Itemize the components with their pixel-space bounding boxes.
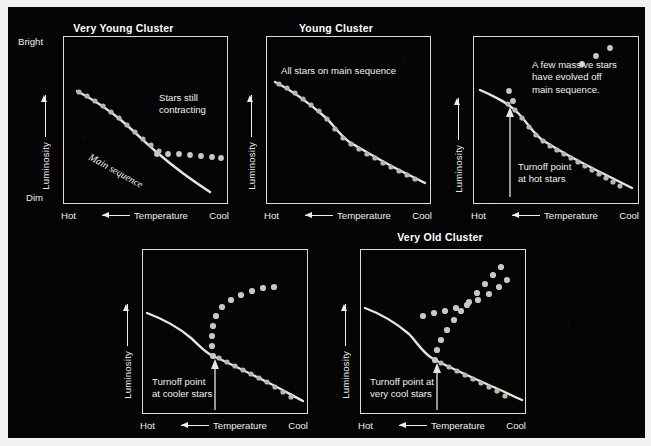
x-axis-old: Hot Temperature Cool xyxy=(140,418,308,432)
left-arrow-icon xyxy=(305,215,333,216)
panel-title: Young Cluster xyxy=(236,22,436,34)
left-arrow-icon xyxy=(512,215,540,216)
giant-branch-dots xyxy=(209,284,277,359)
y-axis-arrow-icon xyxy=(251,95,252,137)
plot-frame: All stars on main sequence xyxy=(266,36,431,204)
x-axis-older: Hot Temperature Cool xyxy=(471,208,639,222)
y-axis-label: Luminosity xyxy=(340,351,351,399)
y-axis-arrow-icon xyxy=(45,95,46,137)
panel-older-cluster: Luminosity xyxy=(443,33,643,223)
main-sequence-curve-label: Main sequence xyxy=(86,151,145,191)
y-axis-bottom-label: Dim xyxy=(26,192,43,203)
all-stars-on-main-sequence-note: All stars on main sequence xyxy=(281,65,396,77)
x-axis-hot-label: Hot xyxy=(264,210,298,221)
main-sequence-dots xyxy=(438,360,507,398)
plot-young-cluster xyxy=(267,37,432,205)
panel-very-old-cluster: Very Old Cluster Luminosity xyxy=(330,231,545,438)
x-axis-label: Temperature xyxy=(134,210,188,221)
stars-still-contracting-note: Stars still contracting xyxy=(159,92,206,117)
x-axis-direction: Temperature xyxy=(95,210,195,221)
x-axis-hot-label: Hot xyxy=(471,210,505,221)
x-axis-direction: Temperature xyxy=(174,420,274,431)
turnoff-point-arrow xyxy=(433,363,441,410)
x-axis-hot-label: Hot xyxy=(358,420,392,431)
y-axis-young: Luminosity xyxy=(244,70,258,190)
panel-old-cluster: Luminosity xyxy=(112,239,327,438)
plot-frame: Turnoff point at cooler stars xyxy=(142,249,308,414)
evolved-off-main-sequence-note: A few massive stars have evolved off mai… xyxy=(532,59,617,96)
turnoff-point-note: Turnoff point at very cool stars xyxy=(370,376,434,401)
left-arrow-icon xyxy=(181,425,209,426)
x-axis-label: Temperature xyxy=(431,420,485,431)
x-axis-direction: Temperature xyxy=(392,420,492,431)
x-axis-hot-label: Hot xyxy=(61,210,95,221)
panel-title: Very Old Cluster xyxy=(350,231,530,243)
y-axis-very-young: Luminosity xyxy=(38,70,52,190)
y-axis-arrow-icon xyxy=(458,98,459,140)
y-axis-arrow-icon xyxy=(345,304,346,346)
x-axis-cool-label: Cool xyxy=(398,210,432,221)
y-axis-arrow-icon xyxy=(127,304,128,346)
hr-diagram-figure: Very Young Cluster Bright Dim Luminosity xyxy=(8,7,645,438)
left-arrow-icon xyxy=(399,425,427,426)
giant-branch-dots xyxy=(432,264,504,363)
x-axis-cool-label: Cool xyxy=(492,420,526,431)
panel-very-young-cluster: Very Young Cluster Bright Dim Luminosity xyxy=(16,22,231,222)
x-axis-very-old: Hot Temperature Cool xyxy=(358,418,526,432)
plot-frame: A few massive stars have evolved off mai… xyxy=(473,36,639,204)
y-axis-top-label: Bright xyxy=(18,36,43,47)
panel-young-cluster: Young Cluster Luminosity xyxy=(236,22,436,222)
x-axis-cool-label: Cool xyxy=(195,210,229,221)
y-axis-label: Luminosity xyxy=(40,142,51,190)
x-axis-label: Temperature xyxy=(337,210,391,221)
x-axis-label: Temperature xyxy=(213,420,267,431)
x-axis-young: Hot Temperature Cool xyxy=(264,208,432,222)
x-axis-hot-label: Hot xyxy=(140,420,174,431)
plot-frame: Main sequence Stars still contracting xyxy=(63,36,228,204)
y-axis-older: Luminosity xyxy=(451,73,465,193)
x-axis-very-young: Hot Temperature Cool xyxy=(61,208,229,222)
turnoff-point-note: Turnoff point at cooler stars xyxy=(152,376,212,401)
left-arrow-icon xyxy=(102,215,130,216)
x-axis-cool-label: Cool xyxy=(605,210,639,221)
y-axis-label: Luminosity xyxy=(122,351,133,399)
y-axis-old: Luminosity xyxy=(120,279,134,399)
y-axis-label: Luminosity xyxy=(453,145,464,193)
turnoff-point-note: Turnoff point at hot stars xyxy=(518,161,571,186)
x-axis-label: Temperature xyxy=(544,210,598,221)
x-axis-direction: Temperature xyxy=(505,210,605,221)
x-axis-cool-label: Cool xyxy=(274,420,308,431)
panel-title: Very Young Cluster xyxy=(16,22,231,34)
plot-very-young-cluster: Main sequence xyxy=(64,37,229,205)
x-axis-direction: Temperature xyxy=(298,210,398,221)
y-axis-label: Luminosity xyxy=(246,142,257,190)
main-sequence-curve xyxy=(275,82,425,183)
y-axis-very-old: Luminosity xyxy=(338,279,352,399)
horizontal-branch-dots xyxy=(420,277,510,319)
main-sequence-dots xyxy=(216,355,293,399)
turnoff-point-arrow xyxy=(506,107,514,197)
plot-frame: Turnoff point at very cool stars xyxy=(360,249,526,414)
